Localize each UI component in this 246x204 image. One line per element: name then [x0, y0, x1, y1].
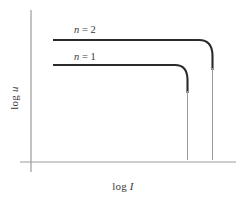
x-axis-label-prefix: log: [112, 180, 127, 192]
curve-annotation-n2-value: 2: [90, 24, 95, 35]
curve-annotation-n2: n = 2: [74, 24, 96, 35]
x-axis-label: log I: [0, 180, 246, 192]
figure-canvas: n = 2 n = 1 log I log u: [0, 0, 246, 204]
curve-n1: [53, 65, 188, 93]
y-axis-label-prefix: log: [8, 95, 20, 110]
curve-annotation-n2-var: n: [74, 24, 79, 35]
curve-annotation-n1: n = 1: [74, 51, 96, 62]
curve-annotation-n1-eq: =: [82, 51, 88, 62]
plot-svg: [0, 0, 246, 204]
y-axis-label-var: u: [8, 86, 20, 92]
x-axis-label-var: I: [130, 180, 134, 192]
curve-annotation-n2-eq: =: [82, 24, 88, 35]
curve-annotation-n1-var: n: [74, 51, 79, 62]
y-axis-label-wrapper: log u: [0, 70, 28, 130]
y-axis-label: log u: [8, 68, 20, 128]
curve-annotation-n1-value: 1: [90, 51, 95, 62]
